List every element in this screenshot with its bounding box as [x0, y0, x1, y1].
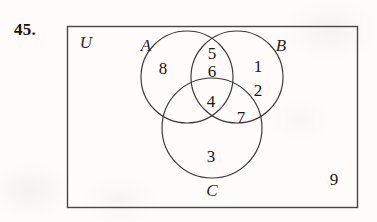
region-value-b-only-first: 1	[254, 57, 263, 76]
exercise-page: 45. U A B C 8 5 6 1 2 4 7 3 9	[0, 0, 377, 222]
label-universal-set: U	[80, 33, 94, 52]
region-value-a-b-bottom: 6	[208, 62, 217, 81]
label-set-b: B	[276, 36, 287, 55]
region-value-a-b-c: 4	[207, 92, 216, 111]
venn-diagram: U A B C 8 5 6 1 2 4 7 3 9	[0, 0, 377, 222]
label-set-a: A	[140, 36, 152, 55]
region-value-b-c: 7	[237, 108, 246, 127]
circle-set-a	[141, 31, 233, 123]
region-value-a-b-top: 5	[208, 44, 217, 63]
region-value-a-only: 8	[159, 59, 168, 78]
region-value-b-only-second: 2	[254, 81, 263, 100]
region-value-c-only: 3	[207, 147, 216, 166]
label-set-c: C	[206, 181, 218, 200]
region-value-outside: 9	[330, 170, 339, 189]
